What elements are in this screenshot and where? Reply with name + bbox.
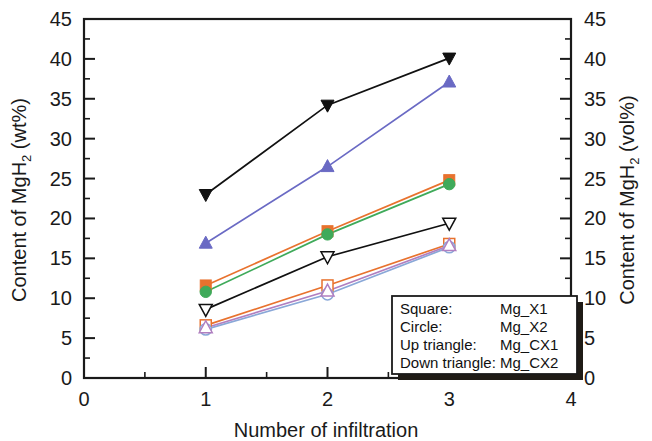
x-ticklabel: 4 (565, 388, 576, 410)
chart-svg: 0510152025303540450510152025303540450123… (0, 0, 652, 441)
datapoint-up-triangle-2-1 (321, 160, 334, 172)
datapoint-up-triangle-2-0 (199, 236, 212, 248)
y-ticklabel-right: 5 (584, 327, 595, 349)
datapoint-down-triangle-7-0 (199, 304, 212, 316)
legend-series-label-1: Mg_X2 (500, 318, 548, 335)
datapoint-circle-1-0 (200, 286, 211, 297)
datapoint-up-triangle-2-2 (443, 75, 456, 87)
legend-series-label-3: Mg_CX2 (500, 354, 558, 371)
y-ticklabel-right: 15 (584, 247, 606, 269)
y-ticklabel-right: 0 (584, 367, 595, 389)
datapoint-circle-1-2 (444, 178, 455, 189)
legend-series-label-0: Mg_X1 (500, 300, 548, 317)
legend-marker-label-3: Down triangle: (400, 354, 496, 371)
y-ticklabel-right: 45 (584, 8, 606, 30)
legend-marker-label-2: Up triangle: (400, 336, 477, 353)
y-ticklabel-right: 10 (584, 287, 606, 309)
legend-marker-label-1: Circle: (400, 318, 443, 335)
y-ticklabel-right: 30 (584, 128, 606, 150)
legend-series-label-2: Mg_CX1 (500, 336, 558, 353)
y-ticklabel-left: 0 (61, 367, 72, 389)
y-ticklabel-left: 45 (50, 8, 72, 30)
x-axis-title: Number of infiltration (234, 419, 419, 441)
legend-marker-label-0: Square: (400, 300, 453, 317)
y-ticklabel-left: 20 (50, 207, 72, 229)
y-ticklabel-right: 25 (584, 168, 606, 190)
datapoint-down-triangle-3-1 (321, 100, 334, 112)
y-ticklabel-left: 40 (50, 48, 72, 70)
y-ticklabel-left: 30 (50, 128, 72, 150)
series-line-mg-cx2-wt- (206, 58, 450, 194)
x-ticklabel: 3 (444, 388, 455, 410)
y-ticklabel-left: 25 (50, 168, 72, 190)
y-ticklabel-right: 35 (584, 88, 606, 110)
y-ticklabel-right: 40 (584, 48, 606, 70)
datapoint-down-triangle-3-0 (199, 190, 212, 202)
x-ticklabel: 2 (322, 388, 333, 410)
y-ticklabel-right: 20 (584, 207, 606, 229)
datapoint-circle-1-1 (322, 229, 333, 240)
y-ticklabel-left: 35 (50, 88, 72, 110)
x-ticklabel: 1 (200, 388, 211, 410)
y-ticklabel-left: 15 (50, 247, 72, 269)
chart-figure: 0510152025303540450510152025303540450123… (0, 0, 652, 441)
y-ticklabel-left: 10 (50, 287, 72, 309)
x-ticklabel: 0 (78, 388, 89, 410)
y-axis-title-right: Content of MgH2 (vol%) (616, 95, 642, 305)
datapoint-down-triangle-7-1 (321, 252, 334, 264)
y-axis-title-left: Content of MgH2 (wt%) (8, 98, 34, 302)
y-ticklabel-left: 5 (61, 327, 72, 349)
